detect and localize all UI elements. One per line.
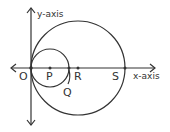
point-q [68, 67, 71, 70]
x-axis-label: x-axis [133, 71, 160, 81]
label-o: O [19, 70, 28, 83]
label-s: S [112, 70, 119, 83]
circle-diagram: y-axis x-axis O P Q R S [0, 0, 170, 132]
label-p: P [46, 70, 53, 83]
y-axis-label: y-axis [37, 9, 64, 19]
point-s [124, 67, 127, 70]
point-o [29, 66, 33, 70]
label-r: R [74, 70, 82, 83]
label-q: Q [63, 86, 72, 99]
